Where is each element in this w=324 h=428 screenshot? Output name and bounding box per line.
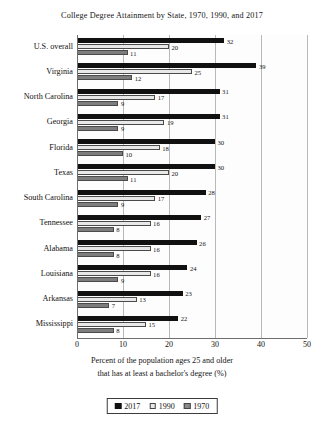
bar-group: North Carolina31179 xyxy=(77,89,307,106)
bar xyxy=(77,126,118,131)
bar xyxy=(77,63,256,68)
bar-value-label: 8 xyxy=(116,251,119,258)
bar-row: 9 xyxy=(77,277,307,282)
bar-row: 15 xyxy=(77,322,307,327)
category-label: Louisiana xyxy=(41,269,73,278)
bar-row: 31 xyxy=(77,114,307,119)
chart-page: College Degree Attainment by State, 1970… xyxy=(0,0,324,428)
bar-group: Virginia392512 xyxy=(77,63,307,80)
bar xyxy=(77,89,220,94)
bar-value-label: 12 xyxy=(135,74,142,81)
plot-area: U.S. overall322011Virginia392512North Ca… xyxy=(77,35,307,338)
bar-row: 25 xyxy=(77,69,307,74)
x-tick-label: 20 xyxy=(165,340,173,349)
category-label: Arkansas xyxy=(43,294,73,303)
bar xyxy=(77,38,224,43)
bar xyxy=(77,176,128,181)
bar-row: 23 xyxy=(77,291,307,296)
bar xyxy=(77,50,128,55)
bar xyxy=(77,170,169,175)
bar-value-label: 9 xyxy=(121,100,124,107)
bar xyxy=(77,190,206,195)
bar xyxy=(77,164,215,169)
bar-row: 30 xyxy=(77,139,307,144)
bar-row: 8 xyxy=(77,227,307,232)
bar-group: Louisiana24169 xyxy=(77,265,307,282)
bar-value-label: 7 xyxy=(112,302,115,309)
x-axis-title-line-1: Percent of the population ages 25 and ol… xyxy=(0,355,324,368)
bar-value-label: 8 xyxy=(116,327,119,334)
bar-row: 30 xyxy=(77,164,307,169)
legend-label: 1990 xyxy=(159,402,175,411)
category-label: South Carolina xyxy=(24,193,73,202)
bar-row: 9 xyxy=(77,126,307,131)
category-label: Alabama xyxy=(43,244,73,253)
bar-row: 28 xyxy=(77,190,307,195)
bar-row: 9 xyxy=(77,101,307,106)
legend-label: 1970 xyxy=(193,402,209,411)
bar xyxy=(77,227,114,232)
bar-row: 22 xyxy=(77,316,307,321)
category-label: Virginia xyxy=(46,67,73,76)
bar xyxy=(77,246,151,251)
bar-value-label: 10 xyxy=(126,150,133,157)
bar-group: Florida301810 xyxy=(77,139,307,156)
bar-row: 16 xyxy=(77,271,307,276)
bar-row: 26 xyxy=(77,240,307,245)
bar-value-label: 8 xyxy=(116,226,119,233)
bar xyxy=(77,271,151,276)
bar-value-label: 9 xyxy=(121,201,124,208)
category-label: Texas xyxy=(54,168,73,177)
bar xyxy=(77,316,178,321)
bar-value-label: 9 xyxy=(121,276,124,283)
x-axis-line xyxy=(77,338,307,339)
bar-row: 39 xyxy=(77,63,307,68)
bar-group: Alabama26168 xyxy=(77,240,307,257)
bar-row: 11 xyxy=(77,176,307,181)
x-tick-label: 50 xyxy=(303,340,311,349)
bar xyxy=(77,202,118,207)
x-axis-title: Percent of the population ages 25 and ol… xyxy=(0,355,324,380)
legend-item-1990: 1990 xyxy=(149,402,175,411)
category-label: North Carolina xyxy=(24,92,73,101)
bar xyxy=(77,196,155,201)
bar-row: 11 xyxy=(77,50,307,55)
bar xyxy=(77,297,137,302)
bar xyxy=(77,240,197,245)
bar xyxy=(77,101,118,106)
bar-row: 31 xyxy=(77,89,307,94)
bar-row: 17 xyxy=(77,95,307,100)
bar xyxy=(77,95,155,100)
bar xyxy=(77,151,123,156)
category-label: Georgia xyxy=(47,117,73,126)
bar xyxy=(77,145,160,150)
bar-row: 7 xyxy=(77,303,307,308)
bar-row: 17 xyxy=(77,196,307,201)
bar-group: Mississippi22158 xyxy=(77,316,307,333)
bar-row: 20 xyxy=(77,170,307,175)
legend-item-1970: 1970 xyxy=(184,402,210,411)
chart-title: College Degree Attainment by State, 1970… xyxy=(0,11,324,20)
x-tick-label: 10 xyxy=(119,340,127,349)
x-tick-label: 30 xyxy=(211,340,219,349)
bar xyxy=(77,328,114,333)
bar-row: 24 xyxy=(77,265,307,270)
bar xyxy=(77,291,183,296)
legend-label: 2017 xyxy=(124,402,140,411)
bar xyxy=(77,303,109,308)
x-axis-title-line-2: that has at least a bachelor's degree (%… xyxy=(0,368,324,381)
bar-row: 32 xyxy=(77,38,307,43)
bar xyxy=(77,221,151,226)
bar-row: 27 xyxy=(77,215,307,220)
bar-value-label: 11 xyxy=(130,175,136,182)
x-tick-label: 40 xyxy=(257,340,265,349)
bar xyxy=(77,114,220,119)
bar-row: 9 xyxy=(77,202,307,207)
legend-swatch-icon xyxy=(115,403,122,410)
bar-group: South Carolina28179 xyxy=(77,190,307,207)
bar xyxy=(77,139,215,144)
bar-row: 19 xyxy=(77,120,307,125)
bar xyxy=(77,44,169,49)
bar-row: 16 xyxy=(77,221,307,226)
gridline xyxy=(307,35,308,338)
